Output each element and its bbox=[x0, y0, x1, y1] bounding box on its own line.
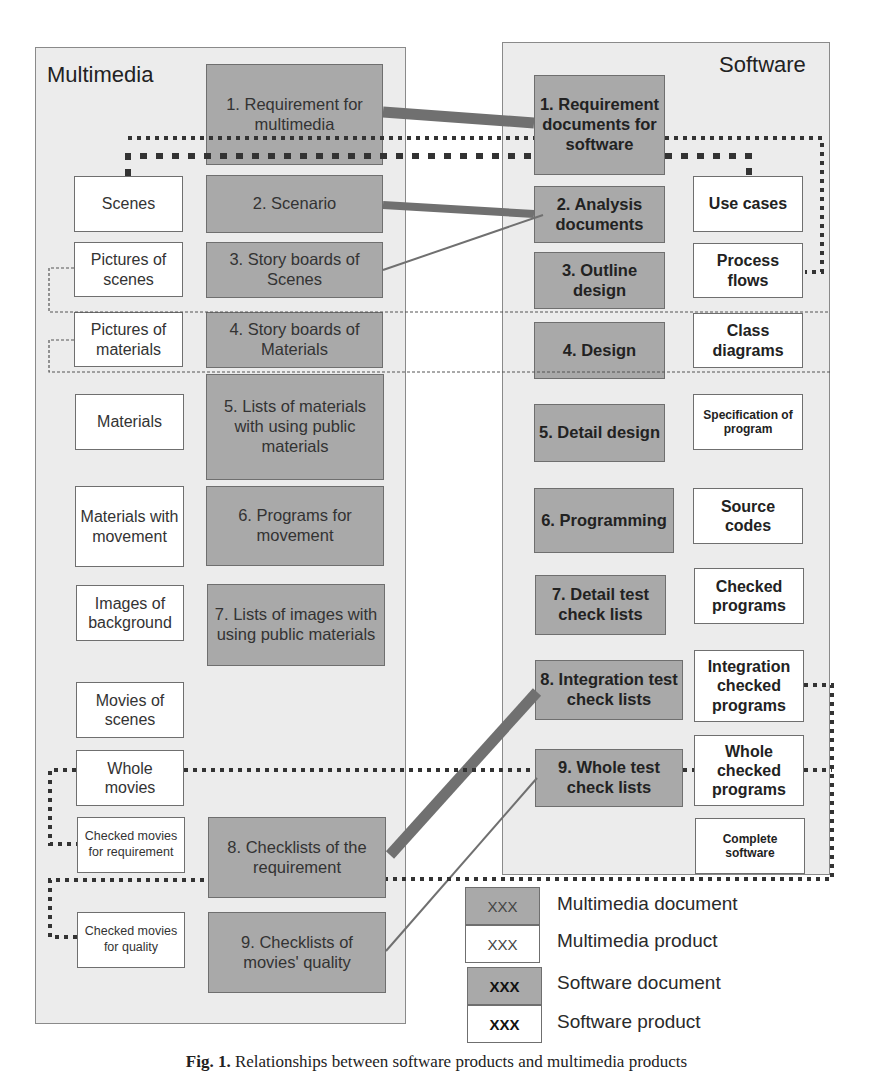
sw-prod-process-flows: Process flows bbox=[693, 243, 803, 298]
sw-prod-class-diagrams: Class diagrams bbox=[693, 313, 803, 368]
caption-text: Relationships between software products … bbox=[235, 1052, 687, 1071]
mm-doc-1-requirement: 1. Requirement for multimedia bbox=[206, 64, 383, 165]
multimedia-panel-title: Multimedia bbox=[47, 62, 153, 88]
legend-swatch-sw-product: XXX bbox=[467, 1005, 542, 1043]
sw-doc-4-design: 4. Design bbox=[534, 322, 665, 379]
legend-swatch-sw-document: XXX bbox=[467, 967, 542, 1005]
sw-doc-9-whole-test: 9. Whole test check lists bbox=[535, 749, 683, 807]
sw-prod-integration-checked: Integration checked programs bbox=[694, 650, 804, 722]
sw-doc-8-integration-test: 8. Integration test check lists bbox=[535, 660, 683, 720]
mm-prod-whole-movies: Whole movies bbox=[76, 750, 184, 806]
legend-swatch-mm-product: XXX bbox=[465, 925, 540, 963]
sw-prod-whole-checked: Whole checked programs bbox=[694, 735, 804, 806]
mm-doc-3-storyboards-scenes: 3. Story boards of Scenes bbox=[206, 242, 383, 298]
mm-prod-materials: Materials bbox=[75, 394, 184, 450]
sw-prod-checked-programs: Checked programs bbox=[694, 568, 804, 624]
mm-doc-6-programs-for-movement: 6. Programs for movement bbox=[206, 486, 384, 566]
caption-prefix: Fig. 1. bbox=[186, 1052, 231, 1071]
mm-prod-checked-movies-requirement: Checked movies for requirement bbox=[77, 817, 185, 873]
sw-prod-complete-software: Complete software bbox=[695, 818, 805, 874]
sw-prod-source-codes: Source codes bbox=[693, 488, 803, 544]
mm-doc-4-storyboards-materials: 4. Story boards of Materials bbox=[206, 312, 383, 368]
sw-doc-6-programming: 6. Programming bbox=[534, 488, 674, 553]
mm-prod-checked-movies-quality: Checked movies for quality bbox=[77, 912, 185, 968]
mm-doc-8-checklists-requirement: 8. Checklists of the requirement bbox=[208, 817, 386, 898]
mm-prod-materials-with-movement: Materials with movement bbox=[75, 486, 184, 567]
figure-caption: Fig. 1. Relationships between software p… bbox=[0, 1052, 873, 1072]
sw-doc-5-detail-design: 5. Detail design bbox=[534, 404, 665, 462]
software-panel-title: Software bbox=[719, 52, 806, 78]
sw-doc-3-outline-design: 3. Outline design bbox=[534, 252, 665, 309]
legend-label-mm-document: Multimedia document bbox=[557, 893, 738, 915]
mm-prod-pictures-of-materials: Pictures of materials bbox=[74, 312, 183, 367]
sw-prod-specification: Specification of program bbox=[693, 394, 803, 450]
legend-swatch-mm-document: XXX bbox=[465, 887, 540, 925]
mm-prod-pictures-of-scenes: Pictures of scenes bbox=[74, 242, 183, 297]
mm-doc-2-scenario: 2. Scenario bbox=[206, 175, 383, 233]
mm-doc-7-lists-of-images: 7. Lists of images with using public mat… bbox=[207, 584, 385, 666]
legend-label-sw-document: Software document bbox=[557, 972, 721, 994]
mm-prod-scenes: Scenes bbox=[74, 176, 183, 232]
sw-prod-use-cases: Use cases bbox=[693, 176, 803, 232]
legend-label-sw-product: Software product bbox=[557, 1011, 701, 1033]
mm-doc-5-lists-of-materials: 5. Lists of materials with using public … bbox=[206, 374, 384, 480]
sw-doc-7-detail-test: 7. Detail test check lists bbox=[535, 575, 666, 635]
sw-doc-2-analysis: 2. Analysis documents bbox=[534, 186, 665, 243]
sw-doc-1-requirement: 1. Requirement documents for software bbox=[534, 75, 665, 175]
mm-doc-9-checklists-quality: 9. Checklists of movies' quality bbox=[208, 912, 386, 993]
mm-prod-movies-of-scenes: Movies of scenes bbox=[76, 682, 184, 738]
mm-prod-images-of-background: Images of background bbox=[76, 585, 184, 641]
legend-label-mm-product: Multimedia product bbox=[557, 930, 718, 952]
